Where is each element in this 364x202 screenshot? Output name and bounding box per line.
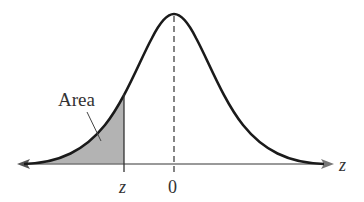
normal-curve-diagram: Area z 0 z: [0, 0, 364, 202]
area-label: Area: [58, 89, 95, 110]
z-tick-label: z: [118, 177, 126, 197]
zero-tick-label: 0: [168, 177, 177, 197]
axis-z-label: z: [338, 155, 346, 175]
